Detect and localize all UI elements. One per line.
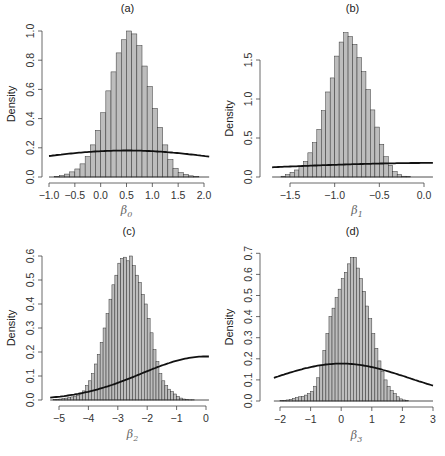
histogram-bar <box>111 72 116 177</box>
histogram-bar <box>85 157 90 177</box>
histogram-bar <box>317 378 320 401</box>
y-axis: 0.00.10.20.30.40.50.60.7 <box>242 246 260 408</box>
y-tick-label: 0.7 <box>242 246 254 261</box>
x-tick-label: 0.5 <box>119 189 134 201</box>
x-axis: −1.0−0.50.00.51.01.52.0 <box>39 183 212 201</box>
histogram-bar <box>357 58 361 177</box>
histogram-bar <box>159 374 162 400</box>
histogram-bar <box>90 145 95 177</box>
histogram-bar <box>103 328 106 400</box>
y-tick-label: 0.6 <box>24 249 36 264</box>
y-tick-label: 0.1 <box>24 369 36 384</box>
histogram-bar <box>353 44 357 177</box>
y-axis-label: Density <box>223 100 235 137</box>
histogram-bar <box>311 392 314 401</box>
histogram-bar <box>294 170 298 177</box>
x-tick-label: 0.0 <box>93 189 108 201</box>
x-tick-label: −1.5 <box>280 189 301 201</box>
histogram-bars <box>53 256 194 400</box>
histogram-bar <box>147 86 152 177</box>
histogram-bar <box>350 258 353 401</box>
histogram-bar <box>321 111 325 177</box>
x-tick-label: −1 <box>305 413 317 425</box>
y-tick-label: 0.6 <box>24 82 36 97</box>
x-axis-label: β2 <box>126 428 138 443</box>
histogram-bar <box>388 165 392 177</box>
histogram-bar <box>94 364 97 400</box>
histogram-bar <box>116 53 121 177</box>
y-tick-label: 0.2 <box>24 140 36 155</box>
x-axis-label: β3 <box>350 429 362 444</box>
histogram-bar <box>106 91 111 177</box>
y-tick-label: 0.2 <box>24 345 36 360</box>
y-tick-label: 0.0 <box>242 170 254 185</box>
histogram-bar <box>153 350 156 400</box>
histogram-bar <box>144 304 147 400</box>
histogram-bar <box>329 317 332 401</box>
histogram-bar <box>171 392 174 400</box>
histogram-bar <box>393 394 396 401</box>
histogram-bar <box>147 318 150 400</box>
panel-d-histogram: (d)−2−10123β30.00.10.20.30.40.50.60.7Den… <box>223 225 436 444</box>
histogram-bar <box>174 394 177 400</box>
x-tick-label: −4 <box>82 412 94 424</box>
x-tick-label: −1.0 <box>324 189 345 201</box>
histogram-bar <box>341 279 344 401</box>
histogram-bar <box>70 172 75 177</box>
histogram-bar <box>168 159 173 177</box>
x-tick-label: −2 <box>141 412 153 424</box>
histogram-bar <box>379 144 383 177</box>
histogram-bar <box>323 350 326 401</box>
histogram-bar <box>142 66 147 177</box>
histogram-bar <box>101 113 106 177</box>
x-axis: −5−4−3−2−10 <box>53 406 209 424</box>
x-tick-label: 0 <box>338 413 344 425</box>
histogram-bar <box>132 34 137 177</box>
y-tick-label: 0.5 <box>242 288 254 303</box>
y-axis-label: Density <box>223 308 235 345</box>
histogram-bar <box>177 396 180 400</box>
y-axis-label: Density <box>5 85 17 122</box>
histogram-bar <box>127 31 132 177</box>
histogram-bar <box>353 258 356 401</box>
y-tick-label: 0.3 <box>24 321 36 336</box>
x-axis: −1.5−1.0−0.50.0 <box>280 183 432 201</box>
histogram-bar <box>91 374 94 400</box>
histogram-bar <box>173 168 178 177</box>
histogram-bar <box>80 164 85 177</box>
y-tick-label: 0.2 <box>242 351 254 366</box>
histogram-bar <box>344 272 347 401</box>
y-tick-label: 0.3 <box>242 330 254 345</box>
y-tick-label: 0.1 <box>242 372 254 387</box>
x-axis: −2−10123 <box>274 407 436 425</box>
histogram-bar <box>335 56 339 177</box>
x-tick-label: 3 <box>430 413 436 425</box>
histogram-bar <box>162 381 165 400</box>
histogram-bar <box>347 264 350 401</box>
histogram-bar <box>378 361 381 401</box>
histogram-bar <box>133 266 136 400</box>
y-tick-label: 0.4 <box>24 111 36 126</box>
x-tick-label: −2 <box>274 413 286 425</box>
y-tick-label: 0.0 <box>242 394 254 409</box>
y-tick-label: 0.4 <box>24 297 36 312</box>
histogram-bar <box>77 395 80 400</box>
y-axis: 0.00.10.20.30.40.50.6 <box>24 249 42 408</box>
histogram-bar <box>312 143 316 177</box>
figure-2x2-histograms: (a)−1.0−0.50.00.51.01.52.0β00.00.20.40.6… <box>0 0 445 456</box>
x-tick-label: 1.0 <box>145 189 160 201</box>
histogram-bar <box>339 42 343 177</box>
x-tick-label: −1.0 <box>39 189 60 201</box>
histogram-bar <box>137 46 142 177</box>
histogram-bar <box>150 333 153 400</box>
x-tick-label: 0 <box>203 412 209 424</box>
histogram-bar <box>308 394 311 401</box>
histogram-bar <box>361 72 365 177</box>
panel-b-histogram: (b)−1.5−1.0−0.50.0β10.00.51.01.5Density <box>223 2 433 219</box>
histogram-bar <box>330 78 334 177</box>
histogram-bar <box>118 263 121 400</box>
y-axis-label: Density <box>5 309 17 346</box>
histogram-bar <box>335 298 338 401</box>
histogram-bar <box>396 397 399 401</box>
histogram-bar <box>178 173 183 177</box>
